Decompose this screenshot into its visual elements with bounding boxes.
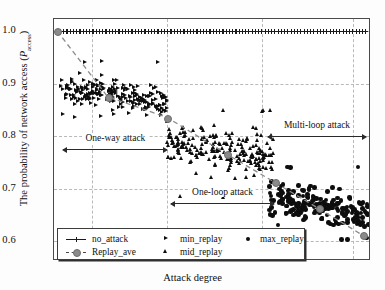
data-point-mid-replay [256,161,260,165]
data-point-min-replay [148,102,152,106]
data-point-max-replay [340,221,345,226]
data-point-mid-replay [200,152,204,156]
data-point-max-replay [319,217,324,222]
data-point-max-replay [288,197,293,202]
data-point-mid-replay [167,127,171,131]
data-point-mid-replay [238,159,242,163]
data-point-mid-replay [217,148,221,152]
data-point-mid-replay [172,155,176,159]
data-point-mid-replay [183,133,187,137]
data-point-min-replay [99,114,103,118]
data-point-mid-replay [213,154,217,158]
data-point-mid-replay [261,108,265,112]
data-point-mid-replay [258,148,262,152]
data-point-max-replay [325,213,330,218]
data-point-min-replay [109,88,113,92]
y-tick-mark [53,241,54,242]
data-point-mid-replay [239,142,243,146]
data-point-mid-replay [255,132,259,136]
y-tick-label-0-9: 0.9 [0,78,16,88]
data-point-mid-replay [195,155,199,159]
data-point-min-replay [89,101,93,105]
annotation-arrow-2 [268,136,366,137]
data-point-max-replay [345,217,350,222]
data-point-mid-replay [181,145,185,149]
data-point-mid-replay [268,108,272,112]
data-point-max-replay [334,220,339,225]
data-point-max-replay [343,206,348,211]
data-point-replay-ave [54,28,62,36]
data-point-max-replay [343,212,348,217]
data-point-max-replay [288,165,293,170]
annotation-arrow-1 [171,203,275,204]
y-tick-label-0-6: 0.6 [0,235,16,245]
data-point-min-replay [165,106,169,110]
data-point-mid-replay [194,171,198,175]
data-point-mid-replay [191,128,195,132]
legend: no_attack Replay_ave min_replay mid_repl… [57,228,305,260]
data-point-min-replay [59,84,63,88]
data-point-mid-replay [261,165,265,169]
data-point-min-replay [132,85,136,89]
data-point-min-replay [60,78,64,82]
data-point-mid-replay [212,123,216,127]
data-point-mid-replay [244,167,248,171]
data-point-min-replay [94,103,98,107]
data-point-max-replay [314,196,319,201]
data-point-mid-replay [264,166,268,170]
data-point-mid-replay [209,175,213,179]
data-point-max-replay [335,206,340,211]
data-point-min-replay [70,77,74,81]
data-point-min-replay [100,59,104,63]
data-point-mid-replay [270,167,274,171]
y-tick-mark [53,136,54,137]
data-point-min-replay [119,102,123,106]
data-point-max-replay [267,184,272,189]
y-axis-label: The probability of network access (Pacce… [18,0,31,239]
data-point-mid-replay [173,144,177,148]
data-point-min-replay [95,78,99,82]
data-point-max-replay [351,208,356,213]
data-point-min-replay [100,73,104,77]
data-point-min-replay [154,97,158,101]
data-point-mid-replay [210,147,214,151]
data-point-mid-replay [233,176,237,180]
data-point-min-replay [113,82,117,86]
data-point-max-replay [326,206,331,211]
legend-label-mid-replay: mid_replay [180,247,222,257]
data-point-min-replay [161,96,165,100]
data-point-min-replay [100,85,104,89]
data-point-mid-replay [200,137,204,141]
data-point-max-replay [299,208,304,213]
legend-label-replay-ave: Replay_ave [92,247,136,257]
data-point-min-replay [138,102,142,106]
data-point-mid-replay [213,162,217,166]
data-point-mid-replay [176,140,180,144]
data-point-mid-replay [221,108,225,112]
data-point-mid-replay [233,148,237,152]
data-point-min-replay [112,78,116,82]
data-point-mid-replay [199,125,203,129]
data-point-mid-replay [251,125,255,129]
data-point-mid-replay [254,143,258,147]
legend-label-min-replay: min_replay [180,234,222,244]
data-point-min-replay [61,112,65,116]
data-point-max-replay [335,196,340,201]
data-point-mid-replay [228,136,232,140]
data-point-mid-replay [261,156,265,160]
data-point-max-replay [276,223,281,228]
data-point-mid-replay [167,133,171,137]
data-point-mid-replay [190,143,194,147]
data-point-max-replay [365,204,370,209]
y-tick-mark [53,189,54,190]
y-axis-label-paren: ) [18,31,29,35]
data-point-max-replay [339,237,344,242]
data-point-min-replay [97,92,101,96]
data-point-min-replay [112,112,116,116]
data-point-replay-ave [360,232,368,240]
data-point-min-replay [156,60,160,64]
data-point-min-replay [73,115,77,119]
data-point-max-replay [347,195,352,200]
x-axis-label: Attack degree [0,272,385,283]
data-point-max-replay [296,193,301,198]
